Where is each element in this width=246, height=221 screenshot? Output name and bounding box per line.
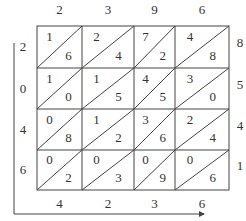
cell-ones-digit: 5 xyxy=(115,89,122,104)
cell-tens-digit: 2 xyxy=(187,112,194,127)
cell-ones-digit: 9 xyxy=(159,170,166,185)
cell-ones-digit: 3 xyxy=(115,170,122,185)
cell-tens-digit: 0 xyxy=(187,152,194,167)
cell-ones-digit: 2 xyxy=(159,48,166,63)
cell-tens-digit: 0 xyxy=(93,152,100,167)
cell-tens-digit: 2 xyxy=(93,29,100,44)
right-digit: 1 xyxy=(237,158,244,173)
cell-tens-digit: 1 xyxy=(46,29,53,44)
cell-tens-digit: 4 xyxy=(187,29,194,44)
cell-diagonal xyxy=(134,109,175,150)
cell-diagonal xyxy=(82,150,134,190)
top-digit: 9 xyxy=(151,2,158,17)
left-digit: 2 xyxy=(20,39,27,54)
top-digit: 3 xyxy=(105,2,112,17)
top-digit: 6 xyxy=(199,2,206,17)
cell-diagonal xyxy=(37,150,82,190)
cell-ones-digit: 2 xyxy=(65,170,72,185)
cell-diagonal xyxy=(37,68,82,109)
cell-ones-digit: 6 xyxy=(159,130,166,145)
cell-tens-digit: 1 xyxy=(93,71,100,86)
left-digit: 0 xyxy=(20,81,27,96)
cell-diagonal xyxy=(37,109,82,150)
left-digit: 6 xyxy=(20,162,27,177)
cell-diagonal xyxy=(134,150,175,190)
cell-tens-digit: 3 xyxy=(142,112,149,127)
cell-diagonal xyxy=(82,68,134,109)
cell-ones-digit: 4 xyxy=(210,130,217,145)
top-digit: 2 xyxy=(56,2,63,17)
right-digit: 5 xyxy=(237,77,244,92)
left-digit: 4 xyxy=(20,122,27,137)
lattice-labels: 1624724810154530081236240203090624329366… xyxy=(20,2,244,211)
cell-ones-digit: 0 xyxy=(65,89,72,104)
cell-diagonal xyxy=(175,68,229,109)
cell-tens-digit: 3 xyxy=(187,71,194,86)
right-digit: 8 xyxy=(237,35,244,50)
cell-diagonal xyxy=(175,26,229,68)
cell-ones-digit: 2 xyxy=(115,130,122,145)
bottom-digit: 6 xyxy=(199,196,206,211)
cell-ones-digit: 5 xyxy=(159,89,166,104)
cell-tens-digit: 1 xyxy=(93,112,100,127)
cell-tens-digit: 0 xyxy=(46,152,53,167)
cell-ones-digit: 6 xyxy=(210,170,217,185)
cell-tens-digit: 0 xyxy=(46,112,53,127)
cell-ones-digit: 0 xyxy=(210,89,217,104)
cell-diagonal xyxy=(37,26,82,68)
bottom-digit: 2 xyxy=(105,196,112,211)
cell-tens-digit: 1 xyxy=(46,71,53,86)
bottom-digit: 3 xyxy=(151,196,158,211)
cell-ones-digit: 8 xyxy=(65,130,72,145)
cell-diagonal xyxy=(82,109,134,150)
cell-diagonal xyxy=(175,109,229,150)
cell-tens-digit: 7 xyxy=(142,29,149,44)
cell-tens-digit: 4 xyxy=(142,71,149,86)
cell-ones-digit: 8 xyxy=(210,48,217,63)
cell-diagonal xyxy=(134,68,175,109)
cell-tens-digit: 0 xyxy=(142,152,149,167)
right-digit: 4 xyxy=(237,118,244,133)
cell-diagonal xyxy=(134,26,175,68)
cell-diagonal xyxy=(175,150,229,190)
cell-ones-digit: 6 xyxy=(65,48,72,63)
lattice-diagram: 1624724810154530081236240203090624329366… xyxy=(0,0,246,221)
cell-diagonal xyxy=(82,26,134,68)
bottom-digit: 4 xyxy=(56,196,63,211)
cell-ones-digit: 4 xyxy=(115,48,122,63)
